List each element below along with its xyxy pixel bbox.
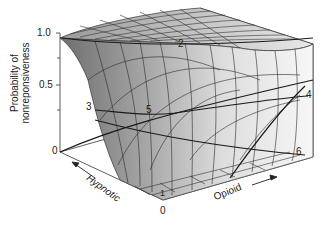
curve-label-4: 4	[306, 89, 312, 100]
front-label-0: 0	[160, 205, 166, 216]
curve-label-6: 6	[296, 146, 302, 157]
z-tick-1: 1.0	[37, 27, 51, 38]
curve-label-2: 2	[178, 38, 184, 49]
curve-label-5: 5	[146, 104, 152, 115]
z-tick-0: 0	[52, 145, 58, 156]
curve-label-3: 3	[86, 101, 92, 112]
z-axis-label: Probability of nonreponsiveness	[9, 23, 31, 143]
opioid-arrow-icon	[252, 175, 277, 185]
z-tick-0-5: 0.5	[39, 79, 53, 90]
front-label-1: 1	[160, 188, 165, 198]
